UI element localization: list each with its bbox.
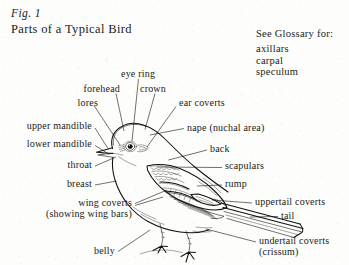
label-uppertail-coverts: uppertail coverts (255, 196, 325, 207)
figure-page: Fig. 1 Parts of a Typical Bird See Gloss… (0, 0, 349, 265)
label-wing-coverts-line2: (showing wing bars) (46, 208, 132, 219)
label-throat: throat (67, 159, 92, 170)
label-forehead: forehead (83, 83, 120, 94)
label-rump: rump (225, 178, 247, 189)
label-nape: nape (nuchal area) (187, 122, 264, 133)
label-wing-coverts: wing coverts (showing wing bars) (46, 197, 132, 219)
label-undertail-coverts: undertail coverts (crissum) (259, 235, 329, 257)
label-belly: belly (94, 245, 115, 256)
label-eye-ring: eye ring (121, 68, 155, 79)
label-undertail-coverts-line1: undertail coverts (259, 235, 329, 246)
label-ear-coverts: ear coverts (179, 97, 225, 108)
label-undertail-coverts-line2: (crissum) (259, 246, 299, 257)
label-breast: breast (67, 178, 92, 189)
label-scapulars: scapulars (225, 160, 264, 171)
leader-lines (0, 0, 349, 265)
label-wing-coverts-line1: wing coverts (78, 197, 132, 208)
label-crown: crown (140, 83, 166, 94)
label-lower-mandible: lower mandible (27, 138, 92, 149)
label-back: back (210, 143, 230, 154)
label-lores: lores (78, 97, 98, 108)
label-upper-mandible: upper mandible (27, 120, 92, 131)
label-tail: tail (281, 210, 295, 221)
